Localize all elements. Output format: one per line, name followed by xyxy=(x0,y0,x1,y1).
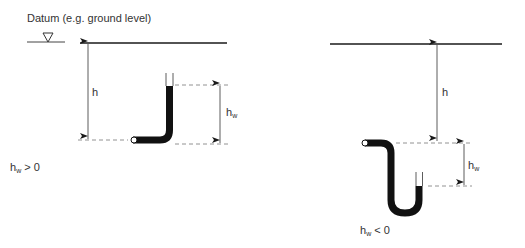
datum-label: Datum (e.g. ground level) xyxy=(27,13,151,24)
right-hw-label: hw xyxy=(468,160,479,172)
cond-rest: < 0 xyxy=(371,224,390,236)
piezometer-diagram xyxy=(0,0,525,248)
right-piezometer-tube xyxy=(362,140,423,213)
right-h-label: h xyxy=(442,87,448,98)
cond-rest: > 0 xyxy=(21,161,40,173)
right-condition-label: hw < 0 xyxy=(360,225,390,237)
left-h-label: h xyxy=(92,87,98,98)
datum-symbol-icon xyxy=(27,33,65,42)
hw-sub: w xyxy=(474,165,479,172)
left-piezometer-tube xyxy=(131,73,173,143)
left-condition-label: hw > 0 xyxy=(10,162,40,174)
left-hw-label: hw xyxy=(226,107,237,119)
hw-sub: w xyxy=(232,112,237,119)
